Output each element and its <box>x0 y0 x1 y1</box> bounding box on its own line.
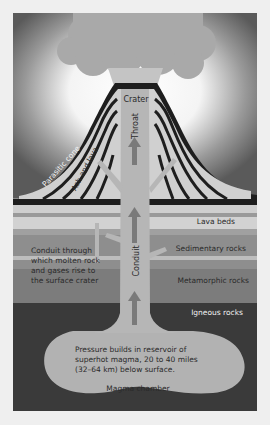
conduit-note: Conduit through which molten rock and ga… <box>31 246 101 285</box>
svg-text:and gases rise to: and gases rise to <box>31 266 96 275</box>
label-sedimentary-rocks: Sedimentary rocks <box>176 244 246 253</box>
svg-text:Pressure builds in reservoir o: Pressure builds in reservoir of <box>75 345 187 354</box>
label-igneous-rocks: Igneous rocks <box>191 308 243 317</box>
svg-text:Conduit through: Conduit through <box>31 246 92 255</box>
svg-text:(32–64 km) below surface.: (32–64 km) below surface. <box>75 365 175 374</box>
label-lava-beds: Lava beds <box>197 217 235 226</box>
svg-text:which molten rock: which molten rock <box>31 256 101 265</box>
svg-text:superhot magma, 20 to 40 miles: superhot magma, 20 to 40 miles <box>75 355 198 364</box>
label-conduit: Conduit <box>132 245 141 276</box>
label-metamorphic-rocks: Metamorphic rocks <box>177 276 249 285</box>
volcano-diagram: Crater Throat Parasitic cone Ash and lav… <box>13 13 257 411</box>
svg-text:the surface crater: the surface crater <box>31 276 99 285</box>
label-throat: Throat <box>131 113 140 140</box>
label-crater: Crater <box>123 95 149 104</box>
label-magma-chamber: Magma chamber <box>106 384 170 393</box>
